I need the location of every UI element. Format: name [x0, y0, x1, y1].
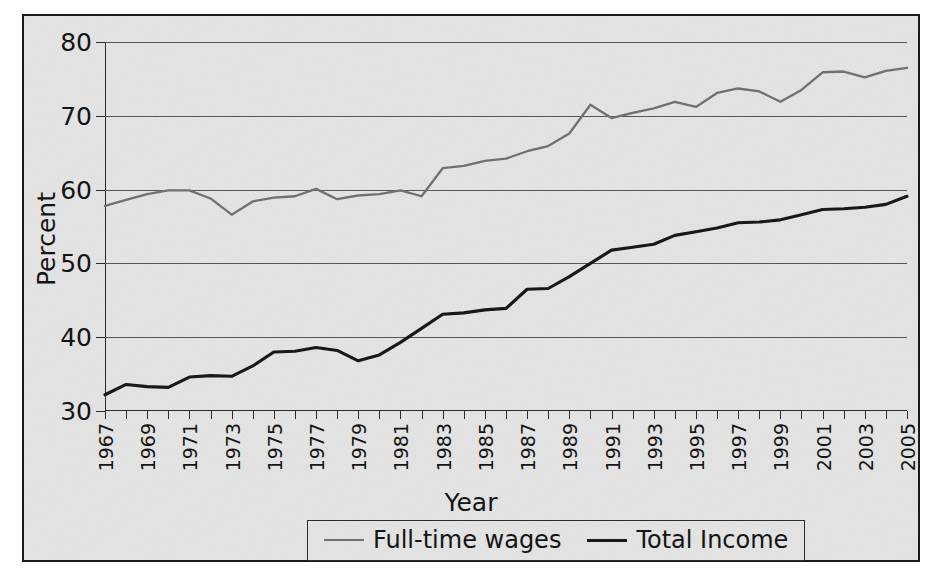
x-tick-label-1977: 1977 [306, 423, 328, 471]
x-tick-1993 [654, 411, 655, 419]
x-tick-label-1995: 1995 [686, 423, 708, 471]
x-tick-1994 [675, 411, 676, 419]
x-tick-1992 [633, 411, 634, 419]
y-tick-70 [96, 116, 105, 117]
figure-stage: Percent 304050607080 1967196919711973197… [0, 0, 944, 577]
series-line-full-time-wages [105, 68, 907, 215]
x-tick-label-1985: 1985 [475, 423, 497, 471]
y-tick-label-80: 80 [60, 28, 92, 57]
legend-item-total-income: Total Income [587, 526, 788, 554]
x-tick-1969 [147, 411, 148, 419]
x-tick-label-1997: 1997 [728, 423, 750, 471]
x-tick-1978 [337, 411, 338, 419]
series-lines [105, 42, 907, 411]
y-tick-label-60: 60 [60, 175, 92, 204]
legend-item-full-time-wages: Full-time wages [324, 526, 561, 554]
x-tick-1974 [253, 411, 254, 419]
x-tick-label-1979: 1979 [348, 423, 370, 471]
x-tick-1987 [527, 411, 528, 419]
x-tick-1983 [443, 411, 444, 419]
x-tick-label-2003: 2003 [855, 423, 877, 471]
x-tick-2003 [865, 411, 866, 419]
x-tick-label-2001: 2001 [813, 423, 835, 471]
x-tick-label-1989: 1989 [559, 423, 581, 471]
x-tick-1971 [189, 411, 190, 419]
y-tick-80 [96, 42, 105, 43]
y-tick-40 [96, 337, 105, 338]
x-tick-2004 [886, 411, 887, 419]
legend-line-icon-full-time-wages [324, 539, 364, 541]
x-tick-2002 [844, 411, 845, 419]
x-tick-label-1987: 1987 [517, 423, 539, 471]
chart-legend: Full-time wages Total Income [307, 520, 805, 561]
x-tick-label-1975: 1975 [264, 423, 286, 471]
x-tick-label-1981: 1981 [390, 423, 412, 471]
x-tick-1990 [590, 411, 591, 419]
y-tick-label-30: 30 [60, 397, 92, 426]
x-tick-1973 [232, 411, 233, 419]
x-tick-1995 [696, 411, 697, 419]
x-tick-1972 [211, 411, 212, 419]
legend-line-icon-total-income [587, 539, 627, 542]
x-tick-1985 [485, 411, 486, 419]
x-tick-1976 [295, 411, 296, 419]
x-tick-label-1999: 1999 [770, 423, 792, 471]
x-tick-1967 [105, 411, 106, 419]
plot-area: 304050607080 196719691971197319751977197… [105, 42, 907, 411]
x-tick-1982 [422, 411, 423, 419]
x-tick-1991 [612, 411, 613, 419]
x-tick-2000 [801, 411, 802, 419]
x-tick-1977 [316, 411, 317, 419]
x-tick-label-1983: 1983 [433, 423, 455, 471]
x-tick-1979 [358, 411, 359, 419]
y-tick-30 [96, 411, 105, 412]
x-tick-label-1969: 1969 [137, 423, 159, 471]
x-tick-label-1971: 1971 [179, 423, 201, 471]
x-tick-1970 [168, 411, 169, 419]
x-tick-label-1991: 1991 [602, 423, 624, 471]
x-tick-1968 [126, 411, 127, 419]
x-tick-1980 [379, 411, 380, 419]
y-tick-label-70: 70 [60, 101, 92, 130]
x-tick-label-2005: 2005 [897, 423, 919, 471]
x-tick-1999 [780, 411, 781, 419]
legend-label-full-time-wages: Full-time wages [373, 526, 561, 554]
x-tick-1997 [738, 411, 739, 419]
x-tick-2005 [907, 411, 908, 419]
x-tick-1988 [548, 411, 549, 419]
y-tick-50 [96, 263, 105, 264]
x-tick-1984 [464, 411, 465, 419]
x-tick-label-1973: 1973 [222, 423, 244, 471]
y-tick-label-40: 40 [60, 323, 92, 352]
x-tick-1981 [400, 411, 401, 419]
x-tick-2001 [823, 411, 824, 419]
x-tick-1996 [717, 411, 718, 419]
x-axis-title: Year [24, 488, 918, 517]
y-tick-label-50: 50 [60, 249, 92, 278]
legend-label-total-income: Total Income [636, 526, 788, 554]
chart-figure: Percent 304050607080 1967196919711973197… [22, 14, 920, 562]
x-tick-1998 [759, 411, 760, 419]
x-tick-1989 [569, 411, 570, 419]
x-tick-1986 [506, 411, 507, 419]
x-tick-label-1993: 1993 [644, 423, 666, 471]
series-line-total-income [105, 196, 907, 395]
x-tick-label-1967: 1967 [95, 423, 117, 471]
x-tick-1975 [274, 411, 275, 419]
y-tick-60 [96, 190, 105, 191]
y-axis-title: Percent [32, 192, 61, 286]
